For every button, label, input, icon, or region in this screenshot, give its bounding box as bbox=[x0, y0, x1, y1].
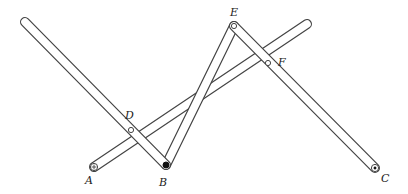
bar-E-to-C bbox=[234, 26, 375, 168]
bar-B-to-E bbox=[166, 26, 234, 165]
pin-E-icon bbox=[231, 23, 236, 28]
pin-F-icon bbox=[265, 60, 270, 65]
label-B: B bbox=[158, 176, 167, 189]
pins-group bbox=[90, 23, 378, 171]
label-E: E bbox=[229, 6, 238, 19]
label-F: F bbox=[277, 56, 286, 69]
pivot-C-center-icon bbox=[374, 167, 376, 169]
pin-B-icon bbox=[163, 162, 169, 168]
label-C: C bbox=[381, 172, 390, 185]
label-A: A bbox=[84, 174, 93, 187]
bars-group bbox=[25, 22, 375, 168]
pin-D-icon bbox=[128, 127, 133, 132]
diagram-canvas: A B C D E F bbox=[0, 0, 408, 194]
label-D: D bbox=[124, 109, 134, 122]
bar-left-long bbox=[25, 22, 166, 165]
linkage-diagram: A B C D E F bbox=[0, 0, 408, 194]
